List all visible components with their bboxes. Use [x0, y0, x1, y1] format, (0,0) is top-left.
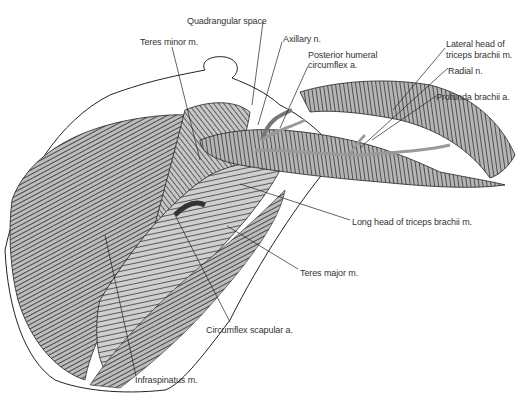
label-circumflex-scapular: Circumflex scapular a.	[206, 325, 293, 335]
label-quadrangular-space: Quadrangular space	[187, 16, 267, 26]
label-teres-major: Teres major m.	[300, 268, 358, 278]
label-lateral-head-triceps-line2: triceps brachii m.	[446, 50, 512, 60]
label-profunda-brachii: Profunda brachii a.	[436, 92, 510, 102]
label-teres-minor: Teres minor m.	[140, 37, 198, 47]
label-infraspinatus: Infraspinatus m.	[135, 375, 197, 385]
label-axillary-n: Axillary n.	[283, 34, 321, 44]
label-radial-n: Radial n.	[448, 66, 483, 76]
label-posterior-humeral-circumflex-line2: circumflex a.	[308, 60, 357, 70]
label-lateral-head-triceps-line1: Lateral head of	[446, 39, 505, 49]
label-posterior-humeral-circumflex-line1: Posterior humeral	[308, 50, 377, 60]
label-long-head-triceps: Long head of triceps brachii m.	[352, 217, 472, 227]
